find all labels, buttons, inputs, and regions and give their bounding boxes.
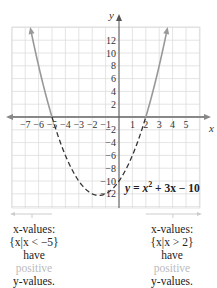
left-caption-line1: x-values:: [4, 223, 64, 236]
left-caption-line5: y-values.: [4, 275, 64, 288]
svg-text:−2: −2: [87, 119, 98, 130]
left-caption-line2: {x|x < −5}: [4, 236, 64, 249]
svg-text:−12: −12: [100, 188, 116, 199]
svg-text:4: 4: [170, 119, 175, 130]
svg-text:2: 2: [111, 99, 116, 110]
right-caption-line2: {x|x > 2}: [142, 236, 202, 249]
svg-text:−3: −3: [73, 119, 84, 130]
interval-brackets: [10, 212, 202, 218]
right-caption-line1: x-values:: [142, 223, 202, 236]
svg-text:−6: −6: [105, 150, 116, 161]
y-axis-label: y: [108, 9, 114, 21]
svg-text:10: 10: [106, 48, 116, 59]
parabola-curve: [29, 27, 170, 195]
svg-text:−4: −4: [60, 119, 71, 130]
left-caption-line3: have: [4, 249, 64, 262]
equation-lhs: y = x: [123, 182, 148, 195]
svg-text:3: 3: [157, 119, 162, 130]
svg-text:−2: −2: [105, 124, 116, 135]
svg-text:−10: −10: [100, 176, 116, 187]
equation-label: y = x2 + 3x − 10: [123, 180, 200, 195]
right-caption-line3: have: [142, 249, 202, 262]
right-caption-line4: positive: [142, 262, 202, 275]
svg-text:12: 12: [106, 35, 116, 46]
svg-text:6: 6: [111, 73, 116, 84]
svg-text:8: 8: [111, 60, 116, 71]
left-caption-line4: positive: [4, 262, 64, 275]
equation-rhs: + 3x − 10: [152, 182, 200, 194]
svg-text:5: 5: [184, 119, 189, 130]
left-caption: x-values: {x|x < −5} have positive y-val…: [4, 223, 64, 288]
svg-text:−8: −8: [105, 163, 116, 174]
svg-text:1: 1: [130, 119, 135, 130]
right-caption-line5: y-values.: [142, 275, 202, 288]
right-caption: x-values: {x|x > 2} have positive y-valu…: [142, 223, 202, 288]
svg-text:4: 4: [111, 86, 116, 97]
svg-text:−6: −6: [33, 119, 44, 130]
svg-text:−4: −4: [105, 137, 116, 148]
svg-text:−7: −7: [20, 119, 31, 130]
x-axis-label: x: [208, 122, 214, 134]
